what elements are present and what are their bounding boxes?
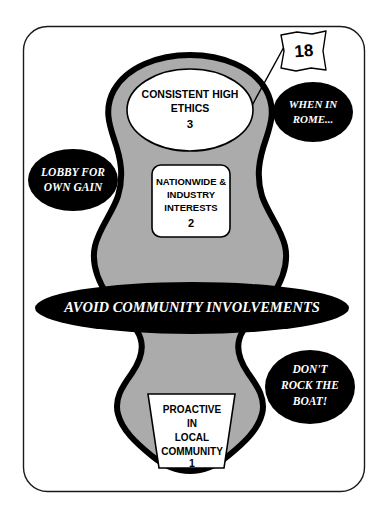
node-2-line-1: NATIONWIDE & <box>156 176 226 187</box>
diagram-svg: 18 CONSISTENT HIGH ETHICS 3 NATIONWIDE &… <box>0 0 384 524</box>
bubble-avoid-community-involvements: AVOID COMMUNITY INVOLVEMENTS <box>35 282 349 334</box>
bubble-rome-line-1: WHEN IN <box>289 98 339 110</box>
node-1-number: 1 <box>189 457 195 469</box>
node-proactive-local-community: PROACTIVE IN LOCAL COMMUNITY 1 <box>148 394 235 469</box>
bubble-boat-line-2: ROCK THE <box>280 379 339 391</box>
node-2-line-2: INDUSTRY <box>167 189 216 200</box>
node-3-number: 3 <box>187 118 193 130</box>
flag-label: 18 <box>294 41 314 61</box>
node-3-line-2: ETHICS <box>171 102 210 114</box>
bubble-when-in-rome: WHEN IN ROME... <box>273 82 353 142</box>
node-1-line-1: PROACTIVE <box>163 404 222 415</box>
bubble-boat-line-1: DON'T <box>291 363 328 375</box>
node-1-line-4: COMMUNITY <box>161 446 223 457</box>
node-consistent-high-ethics: CONSISTENT HIGH ETHICS 3 <box>127 69 253 151</box>
flag-18: 18 <box>281 31 326 71</box>
node-nationwide-industry-interests: NATIONWIDE & INDUSTRY INTERESTS 2 <box>152 165 230 237</box>
node-3-line-1: CONSISTENT HIGH <box>142 88 239 100</box>
bubble-dont-rock-the-boat: DON'T ROCK THE BOAT! <box>265 350 355 424</box>
bubble-lobby-line-1: LOBBY FOR <box>40 166 105 178</box>
node-2-line-3: INTERESTS <box>164 202 217 213</box>
diagram-canvas: 18 CONSISTENT HIGH ETHICS 3 NATIONWIDE &… <box>0 0 384 524</box>
node-1-line-3: LOCAL <box>175 432 209 443</box>
bubble-lobby-line-2: OWN GAIN <box>44 181 103 193</box>
bubble-boat-line-3: BOAT! <box>292 395 328 407</box>
bubble-avoid-label: AVOID COMMUNITY INVOLVEMENTS <box>63 299 320 315</box>
bubble-rome-line-2: ROME... <box>292 113 334 125</box>
node-2-number: 2 <box>188 217 194 229</box>
bubble-lobby-for-own-gain: LOBBY FOR OWN GAIN <box>28 149 118 211</box>
node-1-line-2: IN <box>187 418 197 429</box>
